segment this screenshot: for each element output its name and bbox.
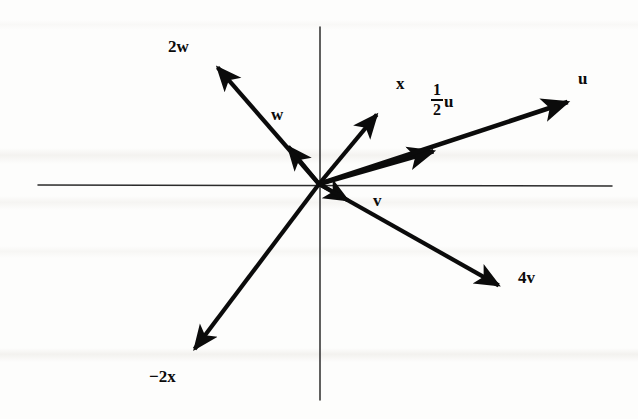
vector-symbol-w: w bbox=[271, 105, 283, 124]
fraction-denominator: 2 bbox=[432, 101, 442, 118]
vector-coefficient: −2 bbox=[149, 367, 167, 386]
vector-label-u: u bbox=[578, 70, 587, 87]
vector-symbol-x: x bbox=[396, 74, 405, 93]
vector-symbol-u: u bbox=[578, 69, 587, 88]
fraction-numerator: 1 bbox=[432, 82, 442, 99]
vector-label-half-u: 12u bbox=[431, 82, 453, 118]
vector-diagram-figure: w2wx−2x12uuv4v bbox=[0, 0, 638, 419]
vector-symbol-u: u bbox=[444, 92, 453, 112]
vector-symbol-v: v bbox=[527, 268, 536, 287]
vector-label-x: x bbox=[396, 75, 405, 92]
vector-symbol-x: x bbox=[167, 367, 176, 386]
vector-label-w: w bbox=[271, 106, 283, 123]
vector-label-4v: 4v bbox=[518, 269, 535, 286]
vector-coefficient: 2 bbox=[168, 37, 177, 56]
vector-arrow-4v bbox=[319, 184, 499, 285]
vector-arrow-2w bbox=[218, 67, 319, 184]
vector-label--2x: −2x bbox=[149, 368, 176, 385]
vector-canvas bbox=[0, 0, 638, 419]
vector-arrow--2x bbox=[195, 184, 319, 349]
vector-label-v: v bbox=[373, 192, 382, 209]
vector-symbol-w: w bbox=[177, 37, 189, 56]
vector-symbol-v: v bbox=[373, 191, 382, 210]
vector-coefficient: 4 bbox=[518, 268, 527, 287]
fraction-one-half: 12 bbox=[431, 82, 443, 118]
vector-label-2w: 2w bbox=[168, 38, 189, 55]
